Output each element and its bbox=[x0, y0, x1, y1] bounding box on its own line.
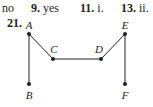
vertex-C bbox=[51, 57, 55, 61]
graph-diagram: ABCDEF bbox=[0, 0, 153, 107]
vertex-label-E: E bbox=[121, 19, 129, 31]
vertex-E bbox=[123, 32, 127, 36]
vertex-F bbox=[123, 82, 127, 86]
vertex-label-F: F bbox=[121, 89, 129, 101]
vertex-label-A: A bbox=[25, 19, 33, 31]
vertex-A bbox=[27, 32, 31, 36]
vertex-label-D: D bbox=[94, 43, 103, 55]
edge-DE bbox=[101, 34, 125, 59]
vertex-label-C: C bbox=[50, 43, 58, 55]
vertex-B bbox=[27, 82, 31, 86]
vertex-D bbox=[99, 57, 103, 61]
vertex-label-B: B bbox=[26, 89, 33, 101]
